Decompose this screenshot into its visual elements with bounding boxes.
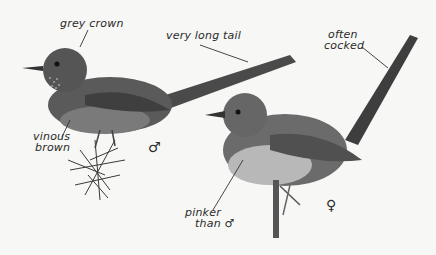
gorse-perch	[68, 140, 125, 200]
label-grey-crown: grey crown	[60, 18, 124, 29]
label-brown: brown	[35, 142, 70, 153]
bird-illustration: grey crown very long tail often cocked v…	[0, 0, 436, 255]
male-head	[43, 48, 87, 92]
label-than-male: than ♂	[195, 218, 235, 229]
twig-perch	[273, 180, 279, 238]
female-symbol: ♀	[326, 197, 336, 213]
label-cocked: cocked	[324, 40, 364, 51]
label-very-long-tail: very long tail	[166, 30, 241, 41]
male-symbol: ♂	[148, 139, 161, 155]
female-head	[223, 93, 267, 137]
